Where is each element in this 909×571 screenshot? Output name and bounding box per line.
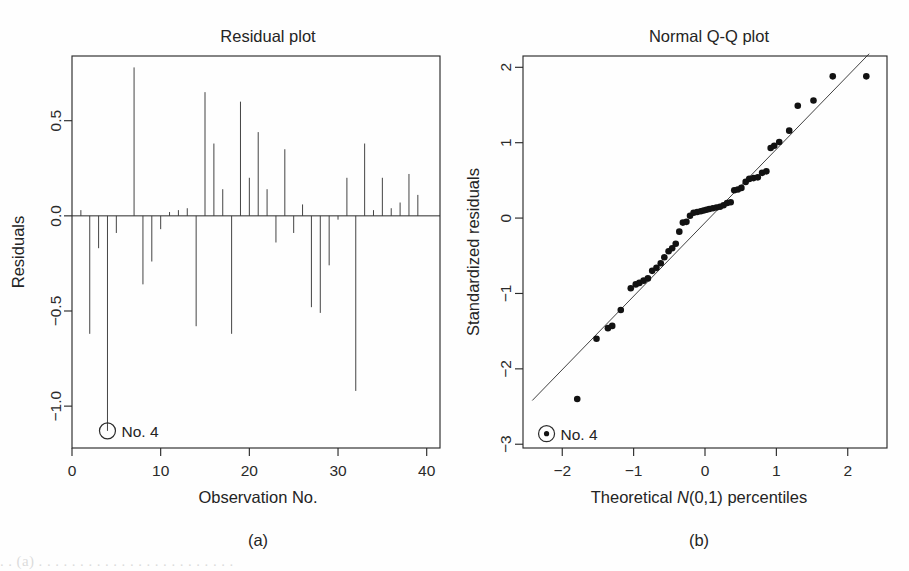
residual-plot-yaxis-label: Residuals	[9, 216, 27, 288]
residual-plot-frame	[72, 56, 440, 448]
normal-qq-plot-ytick-label: −1	[497, 285, 514, 303]
normal-qq-data-point	[776, 139, 783, 146]
normal-qq-plot-xtick-label: −2	[553, 462, 571, 479]
normal-qq-data-point	[738, 185, 745, 192]
normal-qq-annotation-label: No. 4	[561, 426, 598, 443]
normal-qq-data-point	[617, 307, 624, 314]
normal-qq-data-point	[810, 97, 817, 104]
normal-qq-plot-frame	[523, 56, 887, 448]
residual-plot-svg: Residual plot 0102030400.50.0−0.5−1.0No.…	[0, 0, 454, 571]
normal-qq-data-point	[683, 219, 690, 226]
residual-plot-xtick-label: 40	[418, 462, 436, 479]
residual-plot-xtick-label: 0	[68, 462, 77, 479]
normal-qq-data-point	[863, 73, 870, 80]
normal-qq-plot-xaxis-label: Theoretical N(0,1) percentiles	[591, 488, 807, 506]
panel-residual-plot: Residual plot 0102030400.50.0−0.5−1.0No.…	[0, 0, 454, 571]
normal-qq-data-point	[794, 102, 801, 109]
normal-qq-plot-xtick-label: 0	[701, 462, 710, 479]
normal-qq-data-point	[676, 228, 683, 235]
figure-container: Residual plot 0102030400.50.0−0.5−1.0No.…	[0, 0, 909, 571]
residual-plot-xtick-label: 10	[152, 462, 170, 479]
residual-plot-ytick-label: −0.5	[47, 296, 64, 327]
panel-a-tag: (a)	[248, 531, 268, 549]
normal-qq-plot-yaxis-label: Standardized residuals	[464, 168, 482, 336]
panel-normal-qq-plot: Normal Q-Q plot −2−1012210−1−2−3No. 4 Th…	[455, 0, 909, 571]
normal-qq-plot-svg: Normal Q-Q plot −2−1012210−1−2−3No. 4 Th…	[455, 0, 909, 571]
caption-text: . . (a) . . . . . . . . . . . . . . . . …	[0, 556, 909, 570]
normal-qq-data-point	[829, 73, 836, 80]
residual-plot-title: Residual plot	[220, 27, 316, 45]
normal-qq-data-point	[657, 260, 664, 267]
residual-plot-xtick-label: 20	[241, 462, 259, 479]
normal-qq-plot-title: Normal Q-Q plot	[649, 27, 770, 45]
normal-qq-plot-ytick-label: 2	[497, 63, 514, 72]
residual-plot-xaxis-label: Observation No.	[198, 488, 317, 506]
residual-plot-xtick-label: 30	[329, 462, 347, 479]
normal-qq-plot-ytick-label: 0	[497, 213, 514, 222]
normal-qq-plot-ytick-label: −3	[497, 435, 514, 453]
normal-qq-plot-xtick-label: 2	[843, 462, 852, 479]
normal-qq-reference-line	[532, 54, 869, 401]
residual-plot-ytick-label: −1.0	[47, 390, 64, 421]
residual-plot-ytick-label: 0.5	[47, 110, 64, 132]
normal-qq-data-point	[609, 323, 616, 330]
normal-qq-plot-xtick-label: −1	[625, 462, 643, 479]
normal-qq-plot-xtick-label: 1	[772, 462, 781, 479]
normal-qq-data-point	[672, 240, 679, 247]
normal-qq-data-point	[786, 127, 793, 134]
normal-qq-data-point	[727, 199, 734, 206]
page-caption-fragment: . . (a) . . . . . . . . . . . . . . . . …	[0, 556, 909, 571]
normal-qq-annotation-dot	[544, 431, 549, 436]
residual-plot-annotation-label: No. 4	[121, 423, 158, 440]
normal-qq-data-point	[593, 335, 600, 342]
normal-qq-plot-ytick-label: −2	[497, 360, 514, 378]
normal-qq-data-point	[574, 396, 581, 403]
panel-b-tag: (b)	[689, 531, 709, 549]
residual-plot-ytick-label: 0.0	[47, 205, 64, 227]
normal-qq-data-point	[645, 275, 652, 282]
normal-qq-plot-ytick-label: 1	[497, 138, 514, 147]
normal-qq-data-point	[661, 254, 668, 261]
normal-qq-data-point	[763, 168, 770, 175]
